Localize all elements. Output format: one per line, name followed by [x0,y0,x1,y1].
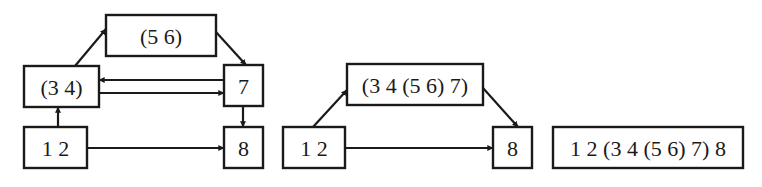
arrow-n34-to-n56 [75,29,106,66]
arrow-line [216,32,246,65]
node-n8: 8 [224,127,263,168]
node-m12: 1 2 [283,127,345,168]
arrow-n56-to-n7 [216,32,246,65]
node-label: 7 [238,74,249,99]
node-n12: 1 2 [24,127,87,168]
node-label: 1 2 [42,136,70,161]
diagram-canvas: (5 6)(3 4)71 28(3 4 (5 6) 7)1 281 2 (3 4… [0,0,762,187]
panel-2-nodes: (3 4 (5 6) 7)1 28 [283,64,532,168]
node-label: (3 4) [40,75,82,100]
node-label: 1 2 (3 4 (5 6) 7) 8 [570,136,726,161]
node-label: 8 [238,136,249,161]
node-n56: (5 6) [106,15,216,56]
node-r: 1 2 (3 4 (5 6) 7) 8 [553,127,743,168]
panel-3-nodes: 1 2 (3 4 (5 6) 7) 8 [553,127,743,168]
nodes-layer: (5 6)(3 4)71 28(3 4 (5 6) 7)1 281 2 (3 4… [24,15,743,168]
node-n7: 7 [224,65,263,106]
panel-1-nodes: (5 6)(3 4)71 28 [24,15,263,168]
node-label: 1 2 [300,136,328,161]
node-m8: 8 [493,127,532,168]
arrow-line [75,29,106,66]
arrow-m12-to-m3457 [313,90,347,127]
node-m3457: (3 4 (5 6) 7) [347,64,483,105]
arrow-m3457-to-m8 [483,88,518,127]
arrow-line [483,88,518,127]
node-n34: (3 4) [24,66,99,107]
node-label: (3 4 (5 6) 7) [362,73,468,98]
arrow-line [313,90,347,127]
node-label: 8 [507,136,518,161]
node-label: (5 6) [140,24,182,49]
